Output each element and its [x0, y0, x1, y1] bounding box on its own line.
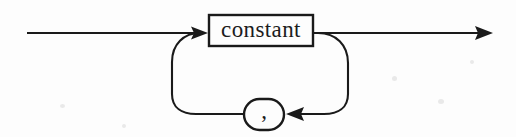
railroad-diagram-canvas: constant ,	[0, 0, 516, 137]
railroad-diagram: constant ,	[0, 0, 516, 137]
node-comma-label: ,	[261, 98, 267, 123]
node-constant-label: constant	[221, 17, 301, 42]
